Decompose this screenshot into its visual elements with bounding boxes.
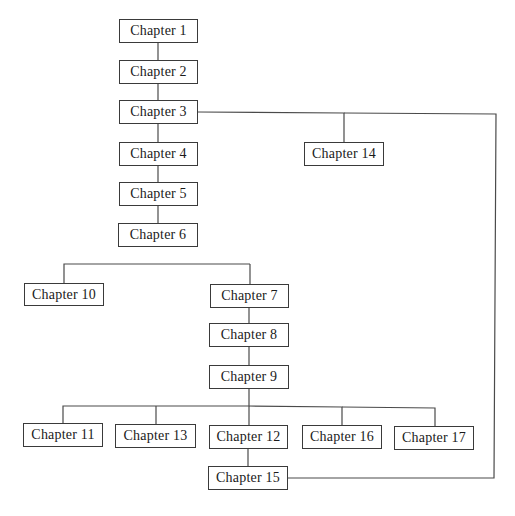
node-label: Chapter 5 — [130, 186, 187, 202]
edge-ch3-to-ch15 — [288, 113, 496, 478]
edge-ch3-to-ch14 — [198, 112, 344, 142]
node-label: Chapter 4 — [130, 146, 187, 162]
chapter-dependency-diagram: Chapter 1Chapter 2Chapter 3Chapter 4Chap… — [0, 0, 515, 516]
node-ch7: Chapter 7 — [210, 284, 289, 308]
edge-ch9-to-ch17 — [342, 407, 435, 426]
node-ch6: Chapter 6 — [118, 223, 198, 247]
node-label: Chapter 16 — [310, 429, 374, 445]
node-label: Chapter 15 — [216, 470, 280, 486]
node-ch15: Chapter 15 — [208, 466, 288, 490]
node-label: Chapter 10 — [32, 287, 96, 303]
node-ch5: Chapter 5 — [119, 182, 198, 206]
node-label: Chapter 1 — [130, 23, 187, 39]
node-label: Chapter 17 — [402, 430, 466, 446]
node-label: Chapter 12 — [217, 429, 281, 445]
node-ch14: Chapter 14 — [304, 142, 384, 166]
node-label: Chapter 2 — [130, 64, 187, 80]
node-ch17: Chapter 17 — [394, 426, 474, 450]
node-label: Chapter 14 — [312, 146, 376, 162]
edge-ch9-to-ch16 — [249, 406, 342, 425]
node-label: Chapter 3 — [130, 104, 187, 120]
node-ch13: Chapter 13 — [115, 424, 196, 448]
node-ch11: Chapter 11 — [23, 423, 103, 447]
node-ch1: Chapter 1 — [119, 19, 198, 43]
node-ch8: Chapter 8 — [209, 323, 289, 347]
node-ch4: Chapter 4 — [119, 142, 198, 166]
node-label: Chapter 13 — [124, 428, 188, 444]
node-ch9: Chapter 9 — [209, 365, 289, 389]
edge-ch6-to-ch10 — [64, 264, 250, 283]
node-ch12: Chapter 12 — [209, 425, 288, 449]
node-ch16: Chapter 16 — [302, 425, 382, 449]
node-label: Chapter 8 — [221, 327, 278, 343]
node-label: Chapter 6 — [130, 227, 187, 243]
node-label: Chapter 11 — [31, 427, 94, 443]
node-ch10: Chapter 10 — [24, 283, 104, 306]
node-label: Chapter 9 — [221, 369, 278, 385]
node-ch3: Chapter 3 — [119, 100, 198, 124]
node-ch2: Chapter 2 — [119, 60, 198, 84]
node-label: Chapter 7 — [221, 288, 278, 304]
